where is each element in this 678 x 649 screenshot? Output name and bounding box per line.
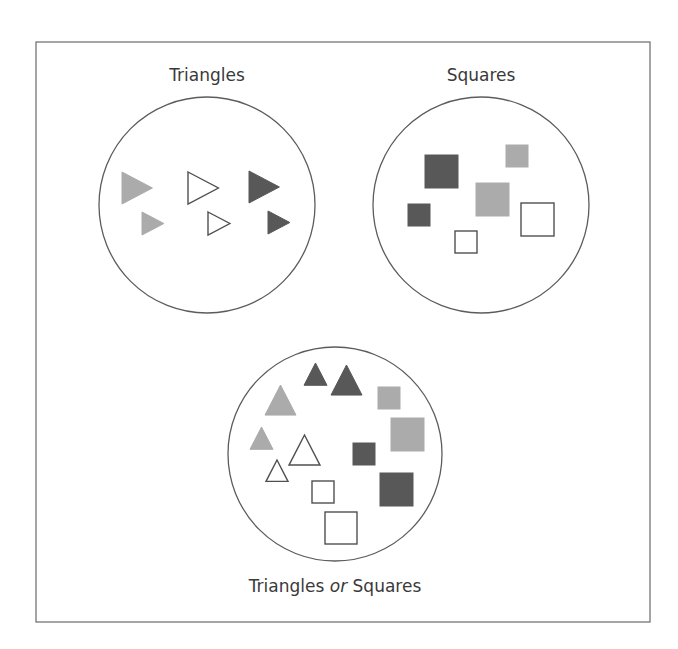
set-triangles-or-squares: Triangles or Squares bbox=[228, 347, 442, 596]
set-label-squares: Squares bbox=[447, 65, 516, 85]
open-square-icon bbox=[521, 203, 554, 236]
light-square-icon bbox=[391, 418, 424, 451]
dark-square-icon bbox=[380, 473, 413, 506]
light-square-icon bbox=[506, 145, 528, 167]
set-union-diagram: Triangles Squares Triangles or Squares bbox=[0, 0, 678, 649]
open-square-icon bbox=[312, 481, 334, 503]
light-square-icon bbox=[378, 387, 400, 409]
open-square-icon bbox=[455, 231, 477, 253]
dark-square-icon bbox=[425, 155, 458, 188]
set-squares: Squares bbox=[373, 65, 589, 313]
label-part-triangles: Triangles bbox=[248, 576, 330, 596]
set-circle-triangles bbox=[99, 97, 315, 313]
dark-square-icon bbox=[408, 204, 430, 226]
light-square-icon bbox=[476, 183, 509, 216]
set-label-triangles: Triangles bbox=[168, 65, 245, 85]
dark-square-icon bbox=[353, 443, 375, 465]
set-label-union: Triangles or Squares bbox=[248, 576, 422, 596]
open-square-icon bbox=[325, 512, 357, 544]
set-triangles: Triangles bbox=[99, 65, 315, 313]
label-part-squares: Squares bbox=[347, 576, 421, 596]
label-part-or: or bbox=[330, 576, 348, 596]
